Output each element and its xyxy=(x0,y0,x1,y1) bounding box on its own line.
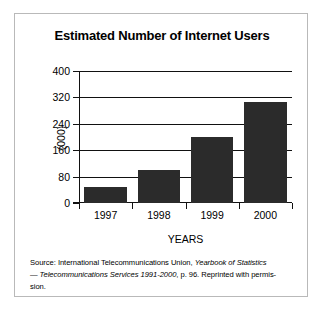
x-tick-mark xyxy=(132,203,133,209)
x-axis-label: YEARS xyxy=(79,233,292,245)
y-tick-label: 160 xyxy=(52,144,70,156)
plot-area: 080160240320400 1997199819992000 xyxy=(79,71,292,203)
x-tick-label: 2000 xyxy=(254,209,277,221)
y-tick-mark xyxy=(73,97,79,98)
gridline xyxy=(79,97,292,98)
x-tick-label: 1997 xyxy=(94,209,117,221)
figure-frame: Estimated Number of Internet Users (000)… xyxy=(14,13,308,297)
y-tick-label: 0 xyxy=(64,197,70,209)
chart-title: Estimated Number of Internet Users xyxy=(15,28,309,43)
source-line-3: sion. xyxy=(30,282,46,291)
y-tick-label: 80 xyxy=(58,171,70,183)
source-line-1-italic: Yearbook of Statistics xyxy=(195,258,267,267)
bar xyxy=(84,187,127,204)
source-line-2-italic: Telecommunications Services 1991-2000 xyxy=(40,270,177,279)
bar xyxy=(244,102,287,203)
source-note: Source: International Telecommunications… xyxy=(30,257,298,292)
y-tick-label: 320 xyxy=(52,91,70,103)
source-line-1-prefix: Source: International Telecommunications… xyxy=(30,258,195,267)
source-line-2-dash: — xyxy=(30,270,40,279)
x-tick-label: 1998 xyxy=(147,209,170,221)
x-tick-mark xyxy=(239,203,240,209)
bar xyxy=(191,137,234,203)
y-tick-mark xyxy=(73,124,79,125)
y-tick-mark xyxy=(73,150,79,151)
y-tick-mark xyxy=(73,177,79,178)
y-tick-mark xyxy=(73,71,79,72)
x-tick-mark xyxy=(79,203,80,209)
y-tick-label: 240 xyxy=(52,118,70,130)
bar xyxy=(138,170,181,203)
x-tick-mark xyxy=(292,203,293,209)
source-line-2-rest: , p. 96. Reprinted with permis- xyxy=(176,270,276,279)
x-tick-label: 1999 xyxy=(200,209,223,221)
x-tick-mark xyxy=(186,203,187,209)
gridline xyxy=(79,71,292,72)
y-tick-label: 400 xyxy=(52,65,70,77)
